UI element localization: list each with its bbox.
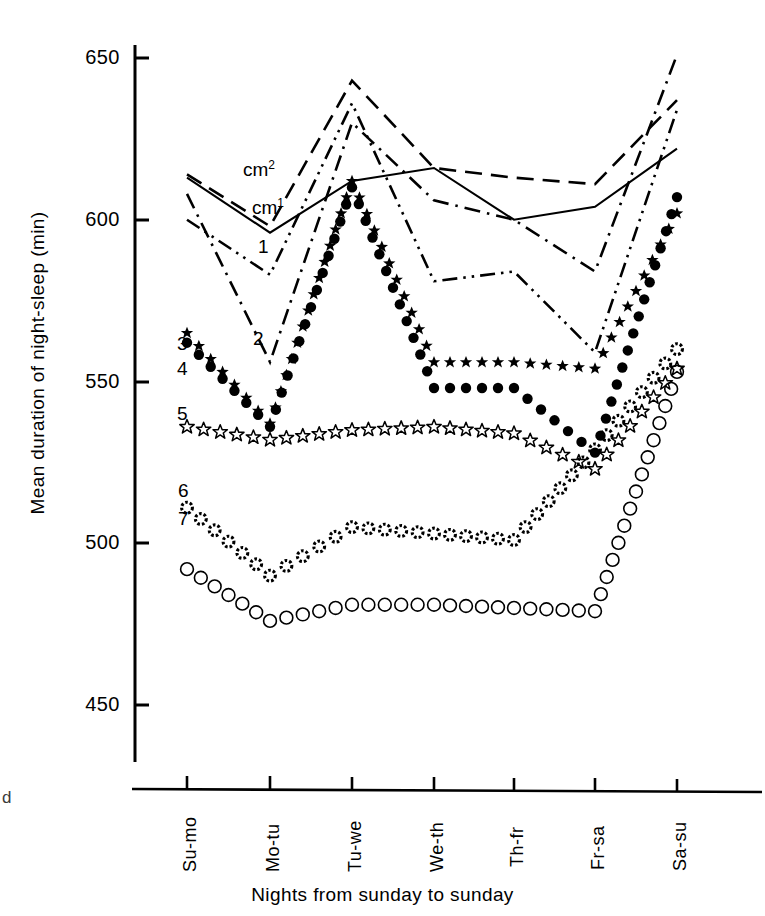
x-tick-sa-su: Sa-su xyxy=(670,821,691,871)
series-label-7: 7 xyxy=(178,508,189,530)
page-edge-artifact: d xyxy=(2,788,11,808)
series-label-2: 2 xyxy=(253,328,264,350)
chart-canvas xyxy=(0,0,765,916)
series-label-1: 1 xyxy=(258,236,269,258)
y-tick-450: 450 xyxy=(30,693,120,716)
x-axis-title: Nights from sunday to sunday xyxy=(0,884,765,906)
x-tick-we-th: We-th xyxy=(427,822,448,872)
series-2 xyxy=(187,103,677,352)
y-tick-650: 650 xyxy=(30,46,120,69)
x-tick-mo-tu: Mo-tu xyxy=(263,823,284,872)
series-label-3: 3 xyxy=(177,333,188,355)
y-axis-title: Mean duration of night-sleep (min) xyxy=(27,153,49,573)
series-label-cm1: cm1 xyxy=(252,196,284,219)
x-tick-su-mo: Su-mo xyxy=(180,816,201,872)
x-tick-tu-we: Tu-we xyxy=(345,820,366,872)
x-tick-fr-sa: Fr-sa xyxy=(588,826,609,871)
axes xyxy=(132,45,762,792)
series-label-4: 4 xyxy=(177,358,188,380)
series-6 xyxy=(182,344,683,581)
series-label-6: 6 xyxy=(178,480,189,502)
x-tick-th-fr: Th-fr xyxy=(507,827,528,868)
series-label-5: 5 xyxy=(177,403,188,425)
figure-container: 650 600 550 500 450 Su-mo Mo-tu Tu-we We… xyxy=(0,0,765,916)
series-label-cm2: cm2 xyxy=(243,158,275,181)
